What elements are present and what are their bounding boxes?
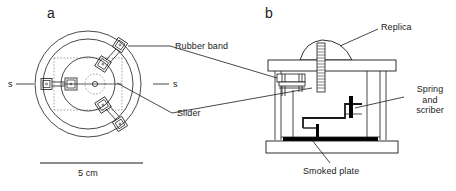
right-support-column	[380, 71, 386, 140]
label-rubber-band: Rubber band	[175, 41, 228, 51]
replica-dome	[300, 40, 352, 60]
leader-spring-scriber	[355, 97, 404, 108]
label-slider: Slider	[177, 108, 201, 118]
slider-lower-right	[95, 97, 128, 132]
threaded-rod	[317, 43, 325, 92]
label-spring-and-scriber: Spring and scriber	[406, 84, 454, 116]
panel-a-drawing	[16, 31, 172, 163]
leader-replica	[340, 29, 378, 46]
axis-label-s-left: s	[8, 79, 13, 89]
label-replica: Replica	[381, 22, 412, 32]
spring-and-scriber-assembly	[303, 96, 362, 138]
top-plate	[268, 60, 396, 71]
base-slab	[266, 141, 398, 153]
axis-label-s-right: s	[173, 79, 178, 89]
label-spring-line-2: and	[406, 95, 454, 106]
panel-b-letter: b	[265, 8, 273, 18]
panel-a-letter: a	[47, 8, 55, 18]
figure-container: a b s s Rubber band Slider 5 cm Replica …	[0, 0, 456, 191]
label-spring-line-3: scriber	[406, 105, 454, 116]
scale-bar-label: 5 cm	[78, 168, 98, 178]
label-spring-line-1: Spring	[406, 84, 454, 95]
label-smoked-plate: Smoked plate	[303, 166, 359, 176]
leader-slider	[117, 83, 172, 113]
